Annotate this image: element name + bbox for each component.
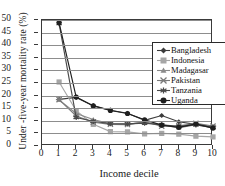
legend-marker-asterisk-icon [157, 86, 170, 95]
y-tick-label: 20 [0, 90, 11, 100]
legend-marker-square-icon [157, 56, 170, 65]
y-tick-mark [34, 44, 38, 45]
y-tick-mark [34, 145, 38, 146]
y-tick-label: 40 [0, 39, 11, 49]
y-tick-mark [34, 120, 38, 121]
y-tick-mark [34, 69, 38, 70]
chart-figure: Under -five-year mortality rate (%) 0510… [0, 0, 225, 186]
legend-marker-x-star-icon [157, 76, 170, 85]
y-tick-label: 10 [0, 115, 11, 125]
y-tick-label: 5 [0, 127, 11, 137]
x-tick-label: 10 [200, 148, 224, 158]
y-tick-label: 25 [0, 77, 11, 87]
data-point-square [161, 58, 167, 64]
data-point-circle [125, 111, 130, 116]
gridline [42, 121, 211, 122]
y-tick-mark [34, 95, 38, 96]
y-tick-mark [34, 32, 38, 33]
data-point-diamond [159, 113, 164, 118]
gridline [42, 133, 211, 134]
y-tick-label: 45 [0, 27, 11, 37]
legend-item-uganda[interactable]: Uganda [157, 96, 225, 106]
legend-label: Indonesia [171, 56, 204, 65]
y-axis-label: Under -five-year mortality rate (%) [18, 6, 28, 156]
gridline [42, 20, 211, 21]
y-tick-mark [34, 132, 38, 133]
y-tick-mark [34, 57, 38, 58]
legend-label: Uganda [171, 96, 198, 105]
y-tick-label: 30 [0, 64, 11, 74]
y-tick-mark [34, 19, 38, 20]
y-tick-mark [34, 107, 38, 108]
legend-label: Madagasar [171, 66, 209, 75]
legend-marker-circle-icon [157, 96, 170, 105]
legend-item-madagasar[interactable]: Madagasar [157, 66, 225, 76]
legend-marker-triangle-icon [157, 66, 170, 75]
gridline [42, 108, 211, 109]
y-tick-label: 15 [0, 102, 11, 112]
data-point-circle [193, 121, 198, 126]
y-tick-mark [34, 82, 38, 83]
data-point-circle [176, 125, 181, 130]
data-point-x-star [160, 78, 167, 84]
legend-item-tanzania[interactable]: Tanzania [157, 86, 225, 96]
y-tick-label: 0 [0, 140, 11, 150]
legend-item-pakistan[interactable]: Pakistan [157, 76, 225, 86]
legend-label: Pakistan [171, 76, 200, 85]
data-point-circle [210, 126, 215, 131]
legend: BangladeshIndonesiaMadagasarPakistanTanz… [152, 42, 225, 105]
gridline [42, 33, 211, 34]
x-axis-label: Income decile [36, 168, 222, 179]
legend-label: Tanzania [171, 86, 202, 95]
y-tick-label: 35 [0, 52, 11, 62]
legend-label: Bangladesh [171, 46, 211, 55]
legend-marker-diamond-icon [157, 46, 170, 55]
legend-item-indonesia[interactable]: Indonesia [157, 56, 225, 66]
data-point-circle [161, 98, 167, 104]
y-tick-label: 50 [0, 14, 11, 24]
plot-area: BangladeshIndonesiaMadagasarPakistanTanz… [41, 19, 212, 145]
data-point-diamond [161, 48, 167, 54]
legend-item-bangladesh[interactable]: Bangladesh [157, 46, 225, 56]
data-point-square [210, 134, 215, 139]
data-point-circle [159, 122, 164, 127]
